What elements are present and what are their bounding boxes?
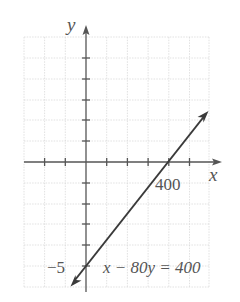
x-intercept-label: 400 [155, 176, 181, 193]
line-arrow-up-icon [198, 111, 209, 123]
equation-label: x − 80y = 400 [103, 259, 201, 276]
y-axis-label: y [67, 15, 75, 34]
graph [0, 0, 240, 302]
line-arrow-down-icon [71, 275, 82, 287]
x-axis [24, 158, 216, 166]
x-axis-label: x [209, 165, 217, 184]
y-intercept-label: −5 [47, 259, 65, 276]
